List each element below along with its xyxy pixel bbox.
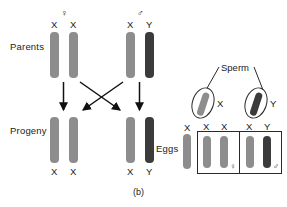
sperm-chromosome-y [249,92,263,117]
egg-allele-label: X [184,123,190,133]
row-label-progeny: Progeny [10,126,47,136]
parent-male-chromosome-x [126,32,135,78]
progeny-female-chromosome-x1 [50,117,59,163]
punnett-cell-1-sex-symbol: ♀ [230,163,236,171]
progeny-female-chromosome-x2 [69,117,78,163]
figure-caption: (b) [133,188,144,197]
progeny-male-chromosome-y [145,117,154,163]
figure-panel-b: Parents Progeny ♀ ♂ X X X Y X X X Y Sper… [0,0,287,207]
sperm-chromosome-x [196,92,210,117]
punnett-cell-1-chromosome-x1 [203,136,211,168]
punnett-cell-1-allele-2: X [221,122,227,132]
egg-chromosome-x [183,134,191,169]
arrow-cross-father-to-daughter [83,82,123,110]
progeny-male-chromosome-x [126,117,135,163]
parent-female-allele-1: X [51,20,57,30]
sperm-y-label: Y [270,99,276,109]
punnett-cell-2-allele-1: X [246,122,252,132]
progeny-male-allele-1: X [127,167,133,177]
punnett-cell-2-chromosome-y [263,136,271,168]
punnett-cell-1-chromosome-x2 [220,136,228,168]
leader-line-sperm-x [206,67,219,90]
punnett-cell-1-allele-1: X [203,122,209,132]
parent-female-chromosome-x1 [50,32,59,78]
sperm-x-label: X [217,99,223,109]
punnett-cell-2-allele-2: Y [264,122,270,132]
parent-male-chromosome-y [145,32,154,78]
row-label-parents: Parents [10,42,44,52]
progeny-female-allele-1: X [51,167,57,177]
parent-male-allele-2: Y [146,20,152,30]
parent-female-sex-symbol: ♀ [61,9,68,18]
punnett-cell-2-chromosome-x [246,136,254,168]
row-label-eggs: Eggs [156,144,178,154]
parent-male-sex-symbol: ♂ [137,9,144,18]
punnett-square-divider [239,131,240,174]
parent-female-chromosome-x2 [69,32,78,78]
parent-female-allele-2: X [70,20,76,30]
sperm-label: Sperm [221,63,249,73]
parent-male-allele-1: X [127,20,133,30]
arrow-cross-mother-to-son [80,82,120,110]
punnett-cell-2-sex-symbol: ♂ [273,163,279,171]
progeny-male-allele-2: Y [146,167,152,177]
progeny-female-allele-2: X [70,167,76,177]
